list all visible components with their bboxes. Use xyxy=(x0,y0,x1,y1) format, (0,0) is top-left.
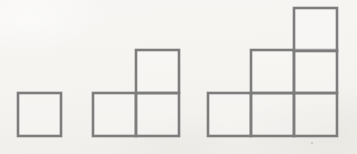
unit-square xyxy=(294,8,337,51)
pattern-sequence-diagram xyxy=(0,0,357,154)
figure-1 xyxy=(18,93,61,136)
unit-square xyxy=(251,93,294,136)
unit-square xyxy=(251,50,294,93)
unit-square xyxy=(294,93,337,136)
unit-square xyxy=(136,50,179,93)
figure-2 xyxy=(93,50,179,136)
unit-square xyxy=(136,93,179,136)
unit-square xyxy=(18,93,61,136)
unit-square xyxy=(208,93,251,136)
unit-square xyxy=(294,50,337,93)
pattern-figure-canvas xyxy=(0,0,357,154)
unit-square xyxy=(93,93,136,136)
figure-3 xyxy=(208,8,337,136)
